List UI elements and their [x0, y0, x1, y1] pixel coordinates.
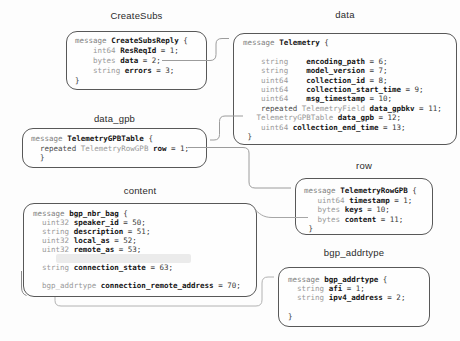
code-block-telemetry: message Telemetry { string encoding_path…: [234, 34, 456, 141]
code-line: message CreateSubsReply {: [75, 36, 206, 46]
code-line: message TelemetryRowGPB {: [304, 186, 432, 196]
code-line: uint64 collection_start_time = 9;: [243, 85, 456, 94]
code-line: uint32 speaker_id = 50;: [33, 218, 256, 227]
code-line: [243, 47, 456, 56]
code-block-bgp-addrtype: message bgp_addrtype { string afi = 1; s…: [279, 268, 429, 321]
code-line: string ipv4_address = 2;: [288, 293, 429, 302]
code-line: bytes content = 11;: [304, 215, 432, 225]
code-line: string connection_state = 63;: [33, 263, 256, 272]
code-line: }: [304, 224, 432, 234]
message-box-bgp-addrtype: message bgp_addrtype { string afi = 1; s…: [278, 267, 430, 327]
code-line: uint32 remote_as = 53;: [33, 245, 256, 254]
code-line: string model_version = 7;: [243, 66, 456, 75]
code-line: [33, 254, 256, 263]
code-line: bgp_addrtype connection_remote_address =…: [33, 281, 256, 290]
box-label-content: content: [23, 185, 257, 196]
code-line: string afi = 1;: [288, 284, 429, 293]
code-line: }: [243, 132, 456, 141]
code-line: string errors = 3;: [75, 66, 206, 76]
code-line: message Telemetry {: [243, 38, 456, 47]
box-label-data-gpb: data_gpb: [22, 113, 207, 124]
code-line: message bgp_addrtype {: [288, 275, 429, 284]
box-label-bgp-addrtype: bgp_addrtype: [278, 247, 430, 258]
code-line: }: [288, 312, 429, 321]
code-line: string encoding_path = 6;: [243, 57, 456, 66]
message-box-createsubsreply: message CreateSubsReply { int64 ResReqId…: [66, 31, 207, 90]
code-line: [33, 272, 256, 281]
code-line: uint64 collection_id = 8;: [243, 76, 456, 85]
code-line: message bgp_nbr_bag {: [33, 209, 256, 218]
code-line: string description = 51;: [33, 227, 256, 236]
code-line: [288, 302, 429, 311]
box-label-createsubs: CreateSubs: [66, 10, 207, 21]
code-line: message TelemetryGPBTable {: [31, 134, 206, 144]
code-block-bgp-nbr-bag: message bgp_nbr_bag { uint32 speaker_id …: [24, 204, 256, 290]
code-line: bytes keys = 10;: [304, 205, 432, 215]
code-line: uint64 msg_timestamp = 10;: [243, 94, 456, 103]
code-line: repeated TelemetryField data_gpbkv = 11;: [243, 104, 456, 113]
code-line: repeated TelemetryRowGPB row = 1;: [31, 144, 206, 154]
message-box-telemetry: message Telemetry { string encoding_path…: [233, 33, 457, 145]
box-label-row: row: [295, 160, 433, 171]
box-label-data: data: [233, 9, 457, 20]
code-block-telemetrygpbtable: message TelemetryGPBTable { repeated Tel…: [23, 129, 206, 163]
code-block-telemetryrowgpb: message TelemetryRowGPB { uint64 timesta…: [296, 179, 432, 234]
message-box-telemetryrowgpb: message TelemetryRowGPB { uint64 timesta…: [295, 178, 433, 235]
code-line: bytes data = 2;: [75, 56, 206, 66]
code-line: uint64 collection_end_time = 13;: [243, 123, 456, 132]
code-line: uint32 local_as = 52;: [33, 236, 256, 245]
code-block-createsubsreply: message CreateSubsReply { int64 ResReqId…: [67, 32, 206, 86]
message-box-telemetrygpbtable: message TelemetryGPBTable { repeated Tel…: [22, 128, 207, 168]
code-line: uint64 timestamp = 1;: [304, 196, 432, 206]
code-line: int64 ResReqId = 1;: [75, 46, 206, 56]
code-line: }: [31, 153, 206, 163]
code-line: }: [75, 76, 206, 86]
protobuf-diagram: CreateSubs message CreateSubsReply { int…: [0, 0, 460, 341]
code-line: TelemetryGPBTable data_gpb = 12;: [243, 113, 456, 122]
message-box-bgp-nbr-bag: message bgp_nbr_bag { uint32 speaker_id …: [23, 203, 257, 297]
